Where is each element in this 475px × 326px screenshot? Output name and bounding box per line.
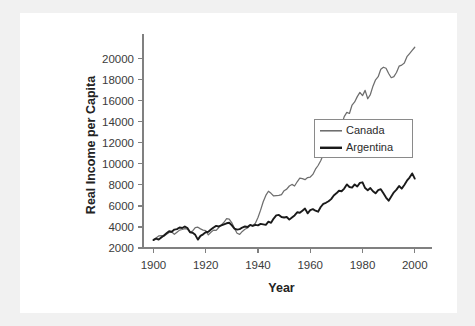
x-tick-label: 1940 [245,259,271,271]
y-tick-label: 4000 [108,221,134,233]
y-tick-label: 6000 [108,200,134,212]
y-tick-label: 2000 [108,242,134,254]
y-tick-label: 14000 [102,116,134,128]
y-tick-label: 16000 [102,95,134,107]
legend-label-argentina: Argentina [346,141,394,153]
x-tick-label: 2000 [402,259,428,271]
y-tick-label: 18000 [102,74,134,86]
y-tick-label: 8000 [108,179,134,191]
y-axis-title: Real Income per Capita [84,75,98,214]
line-chart: 2000400060008000100001200014000160001800… [20,13,457,313]
y-tick-label: 12000 [102,137,134,149]
x-tick-label: 1900 [141,259,167,271]
legend-label-canada: Canada [346,124,385,136]
x-tick-label: 1920 [193,259,219,271]
x-tick-label: 1960 [297,259,323,271]
figure-panel: 2000400060008000100001200014000160001800… [20,13,457,313]
plot-area: 2000400060008000100001200014000160001800… [84,34,432,295]
y-tick-label: 20000 [102,53,134,65]
y-tick-label: 10000 [102,158,134,170]
screenshot-root: 2000400060008000100001200014000160001800… [0,0,475,326]
x-axis-title: Year [268,281,295,295]
x-tick-label: 1980 [350,259,376,271]
